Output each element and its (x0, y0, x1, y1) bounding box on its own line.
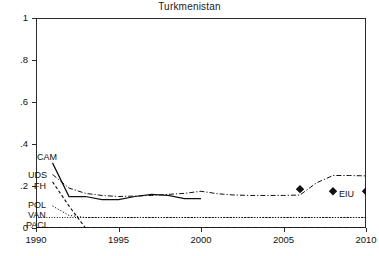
series-label-pol: POL (28, 200, 46, 210)
x-tick-label: 1995 (99, 234, 139, 245)
y-tick-label: .4 (2, 138, 28, 149)
series-line-cam (53, 163, 202, 200)
x-tick-label: 2000 (181, 234, 221, 245)
series-label-uds: UDS (28, 170, 47, 180)
series-label-van: VAN (28, 210, 46, 220)
chart-title: Turkmenistan (0, 1, 379, 12)
series-label-pacl: PACL (26, 220, 49, 230)
plot-canvas (36, 18, 366, 228)
y-tick-label: 0 (2, 222, 28, 233)
x-tick-mark (201, 228, 202, 232)
series-label-fh: FH (34, 181, 46, 191)
eiu-marker-1 (296, 185, 304, 193)
y-tick-label: .2 (2, 180, 28, 191)
x-tick-mark (366, 228, 367, 232)
series-line-pol (53, 206, 367, 218)
x-tick-label: 2010 (346, 234, 379, 245)
series-label-cam: CAM (37, 152, 57, 162)
eiu-marker-label: EIU (339, 189, 354, 199)
y-tick-label: 1 (2, 12, 28, 23)
y-tick-mark (32, 144, 36, 145)
y-tick-label: .8 (2, 54, 28, 65)
chart-container: Turkmenistan 0.2.4.6.81 1990199520002005… (0, 0, 379, 256)
x-tick-mark (284, 228, 285, 232)
x-tick-label: 2005 (264, 234, 304, 245)
series-line-fh (53, 182, 86, 228)
y-tick-label: .6 (2, 96, 28, 107)
y-tick-mark (32, 60, 36, 61)
eiu-marker-2 (329, 187, 337, 195)
series-line-uds (53, 174, 367, 196)
eiu-marker-3 (362, 187, 366, 195)
y-tick-mark (32, 102, 36, 103)
x-tick-mark (119, 228, 120, 232)
x-tick-label: 1990 (16, 234, 56, 245)
y-tick-mark (32, 18, 36, 19)
